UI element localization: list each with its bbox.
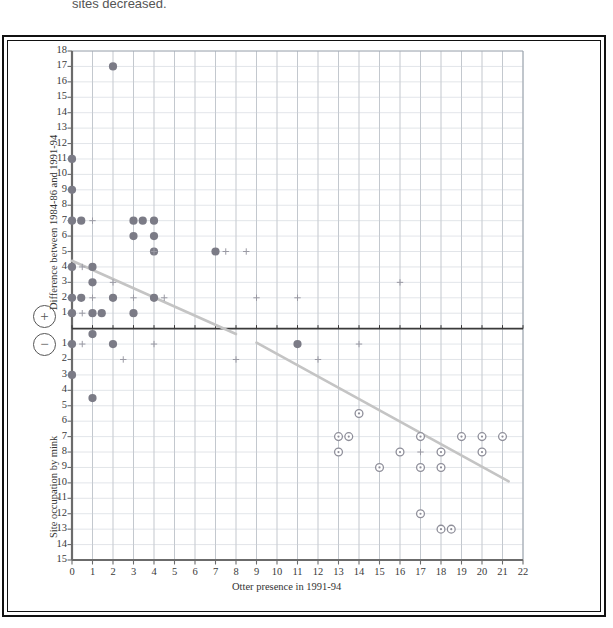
data-point-filled xyxy=(109,340,117,348)
data-point-open-center xyxy=(460,436,462,438)
data-point-filled xyxy=(88,263,96,271)
x-tick-label: 3 xyxy=(124,567,144,578)
x-tick-label: 12 xyxy=(308,567,328,578)
x-tick-label: 9 xyxy=(247,567,267,578)
data-point-open-center xyxy=(337,451,339,453)
data-point-open-center xyxy=(419,513,421,515)
x-tick-label: 22 xyxy=(513,567,533,578)
positive-sign-badge: + xyxy=(33,305,56,328)
y-tick-label-positive: 13 xyxy=(48,122,67,133)
data-point-open-center xyxy=(440,528,442,530)
data-point-open-center xyxy=(501,436,503,438)
data-point-filled xyxy=(88,278,96,286)
scatter-chart xyxy=(0,0,613,628)
data-point-filled xyxy=(129,309,137,317)
data-point-filled xyxy=(68,371,76,379)
data-point-open-center xyxy=(450,528,452,530)
data-point-filled xyxy=(88,330,96,338)
data-point-filled xyxy=(293,340,301,348)
data-point-filled xyxy=(139,217,147,225)
x-tick-label: 0 xyxy=(62,567,82,578)
data-point-filled xyxy=(68,340,76,348)
x-tick-label: 21 xyxy=(493,567,513,578)
y-tick-label-negative: 4 xyxy=(48,384,67,395)
y-tick-label-positive: 17 xyxy=(48,60,67,71)
x-tick-label: 6 xyxy=(185,567,205,578)
negative-sign-badge: − xyxy=(33,333,56,356)
data-point-filled xyxy=(77,294,85,302)
data-point-filled xyxy=(150,294,158,302)
x-tick-label: 19 xyxy=(452,567,472,578)
y-tick-label-negative: 15 xyxy=(48,554,67,565)
x-tick-label: 1 xyxy=(83,567,103,578)
x-tick-label: 2 xyxy=(103,567,123,578)
y-tick-label-negative: 6 xyxy=(48,415,67,426)
data-point-open-center xyxy=(419,436,421,438)
x-tick-label: 13 xyxy=(329,567,349,578)
y-tick-label-positive: 18 xyxy=(48,45,67,56)
data-point-filled xyxy=(68,294,76,302)
x-tick-label: 11 xyxy=(288,567,308,578)
x-tick-label: 14 xyxy=(349,567,369,578)
data-point-filled xyxy=(109,62,117,70)
y-tick-label-negative: 2 xyxy=(48,353,67,364)
data-point-filled xyxy=(68,263,76,271)
x-tick-label: 15 xyxy=(370,567,390,578)
x-tick-label: 16 xyxy=(390,567,410,578)
y-axis-title-lower: Site occupation by mink xyxy=(48,436,59,538)
x-tick-label: 17 xyxy=(411,567,431,578)
data-point-open-center xyxy=(337,436,339,438)
x-tick-label: 4 xyxy=(144,567,164,578)
y-tick-label-negative: 5 xyxy=(48,400,67,411)
x-tick-label: 18 xyxy=(431,567,451,578)
x-tick-label: 20 xyxy=(472,567,492,578)
x-tick-label: 5 xyxy=(165,567,185,578)
data-point-open-center xyxy=(419,466,421,468)
data-point-open-center xyxy=(440,451,442,453)
y-tick-label-positive: 16 xyxy=(48,76,67,87)
x-tick-label: 8 xyxy=(226,567,246,578)
data-point-filled xyxy=(68,155,76,163)
data-point-filled xyxy=(88,309,96,317)
x-tick-label: 7 xyxy=(206,567,226,578)
data-point-open-center xyxy=(378,466,380,468)
data-point-filled xyxy=(150,232,158,240)
x-tick-label: 10 xyxy=(267,567,287,578)
data-point-filled xyxy=(88,394,96,402)
data-point-open-center xyxy=(481,451,483,453)
y-tick-label-negative: 14 xyxy=(48,539,67,550)
data-point-open-center xyxy=(348,436,350,438)
y-tick-label-negative: 3 xyxy=(48,369,67,380)
data-point-filled xyxy=(109,294,117,302)
data-point-open-center xyxy=(399,451,401,453)
data-point-open-center xyxy=(481,436,483,438)
data-point-filled xyxy=(68,309,76,317)
data-point-filled xyxy=(129,232,137,240)
data-point-open-center xyxy=(358,412,360,414)
y-axis-title-upper: Difference between 1984-86 and 1991-94 xyxy=(48,135,59,310)
data-point-open-center xyxy=(440,466,442,468)
y-tick-label-positive: 15 xyxy=(48,91,67,102)
data-point-filled xyxy=(129,217,137,225)
data-point-filled xyxy=(77,217,85,225)
data-point-filled xyxy=(68,217,76,225)
data-point-filled xyxy=(211,247,219,255)
x-axis-title: Otter presence in 1991-94 xyxy=(232,581,341,592)
data-point-filled xyxy=(150,217,158,225)
data-point-filled xyxy=(98,309,106,317)
data-point-filled xyxy=(68,186,76,194)
y-tick-label-positive: 14 xyxy=(48,107,67,118)
